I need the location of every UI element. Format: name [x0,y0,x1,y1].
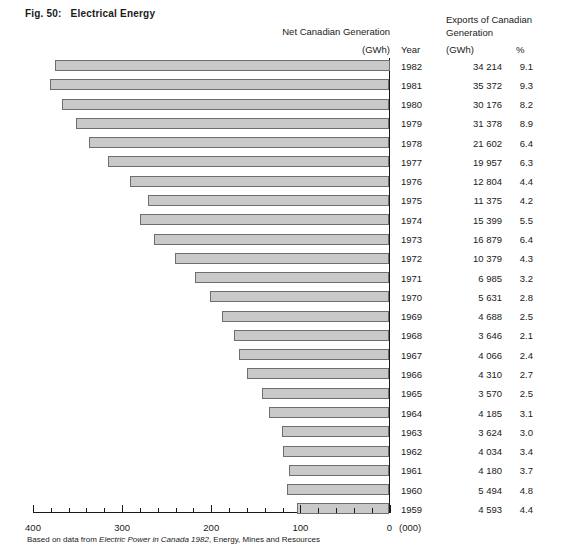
cell-year-1975: 1975 [401,195,422,206]
bar-1961 [289,465,390,476]
bar-1976 [130,176,389,187]
cell-year-1968: 1968 [401,330,422,341]
cell-exports-gwh-1975: 11 375 [446,195,502,206]
x-tick-label-300: 300 [114,522,130,533]
bar-1974 [140,214,390,225]
cell-exports-gwh-1970: 5 631 [446,292,502,303]
footnote-suffix: , Energy, Mines and Resources [209,535,320,544]
x-tick-60 [336,508,337,513]
cell-year-1977: 1977 [401,157,422,168]
x-tick-180 [229,508,230,513]
cell-exports-pct-1961: 3.7 [511,465,533,476]
cell-year-1969: 1969 [401,311,422,322]
cell-exports-gwh-1964: 4 185 [446,408,502,419]
cell-exports-pct-1971: 3.2 [511,273,533,284]
x-tick-160 [247,508,248,513]
cell-exports-pct-1975: 4.2 [511,195,533,206]
bar-1975 [148,195,390,206]
source-footnote: Based on data from Electric Power in Can… [27,535,320,544]
cell-exports-gwh-1969: 4 688 [446,311,502,322]
x-tick-240 [176,508,177,513]
cell-year-1972: 1972 [401,253,422,264]
cell-exports-pct-1972: 4.3 [511,253,533,264]
cell-exports-gwh-1982: 34 214 [446,61,502,72]
cell-exports-gwh-1962: 4 034 [446,446,502,457]
cell-exports-gwh-1961: 4 180 [446,465,502,476]
x-tick-20 [372,508,373,513]
cell-exports-pct-1980: 8.2 [511,99,533,110]
bar-1977 [108,156,390,167]
cell-exports-gwh-1959: 4 593 [446,504,502,515]
cell-year-1960: 1960 [401,485,422,496]
bar-1964 [269,407,389,418]
cell-exports-pct-1966: 2.7 [511,369,533,380]
x-tick-0 [390,505,391,513]
x-axis-unit-label: (000) [399,522,421,533]
cell-exports-gwh-1978: 21 602 [446,138,502,149]
cell-year-1978: 1978 [401,138,422,149]
cell-year-1976: 1976 [401,176,422,187]
cell-exports-pct-1982: 9.1 [511,61,533,72]
bar-1965 [262,388,389,399]
cell-exports-pct-1964: 3.1 [511,408,533,419]
bar-1960 [287,484,389,495]
cell-year-1974: 1974 [401,215,422,226]
cell-year-1962: 1962 [401,446,422,457]
bar-1969 [222,311,390,322]
cell-exports-pct-1978: 6.4 [511,138,533,149]
cell-year-1970: 1970 [401,292,422,303]
bar-1979 [76,118,390,129]
bar-1963 [282,426,390,437]
cell-year-1959: 1959 [401,504,422,515]
cell-exports-gwh-1966: 4 310 [446,369,502,380]
x-tick-40 [354,508,355,513]
cell-exports-pct-1967: 2.4 [511,350,533,361]
cell-year-1965: 1965 [401,388,422,399]
cell-exports-gwh-1981: 35 372 [446,80,502,91]
cell-exports-gwh-1967: 4 066 [446,350,502,361]
bar-1978 [89,137,389,148]
bar-1972 [175,253,390,264]
x-tick-label-400: 400 [25,522,41,533]
cell-year-1971: 1971 [401,273,422,284]
cell-exports-pct-1974: 5.5 [511,215,533,226]
cell-year-1979: 1979 [401,118,422,129]
cell-exports-pct-1969: 2.5 [511,311,533,322]
cell-year-1966: 1966 [401,369,422,380]
cell-exports-gwh-1974: 15 399 [446,215,502,226]
x-tick-label-200: 200 [203,522,219,533]
bar-1962 [283,446,389,457]
cell-year-1964: 1964 [401,408,422,419]
bar-1980 [62,99,390,110]
x-tick-120 [283,508,284,513]
x-tick-380 [51,508,52,513]
cell-year-1961: 1961 [401,465,422,476]
cell-year-1981: 1981 [401,80,422,91]
x-tick-100 [300,505,301,513]
x-tick-400 [33,505,34,513]
x-tick-220 [193,508,194,513]
footnote-prefix: Based on data from [27,535,99,544]
cell-exports-gwh-1968: 3 646 [446,330,502,341]
cell-exports-pct-1977: 6.3 [511,157,533,168]
bar-1970 [210,291,389,302]
cell-exports-pct-1962: 3.4 [511,446,533,457]
x-tick-360 [69,508,70,513]
cell-exports-pct-1963: 3.0 [511,427,533,438]
cell-exports-pct-1959: 4.4 [511,504,533,515]
footnote-source: Electric Power in Canada 1982 [99,535,209,544]
bar-1981 [50,79,390,90]
cell-exports-gwh-1979: 31 378 [446,118,502,129]
cell-exports-gwh-1973: 16 879 [446,234,502,245]
bar-1968 [234,330,389,341]
cell-exports-pct-1973: 6.4 [511,234,533,245]
x-tick-140 [265,508,266,513]
x-tick-label-100: 100 [292,522,308,533]
bar-1971 [195,272,389,283]
bar-1973 [154,234,389,245]
cell-year-1973: 1973 [401,234,422,245]
cell-exports-gwh-1980: 30 176 [446,99,502,110]
x-tick-300 [122,505,123,513]
cell-year-1967: 1967 [401,350,422,361]
cell-exports-pct-1981: 9.3 [511,80,533,91]
